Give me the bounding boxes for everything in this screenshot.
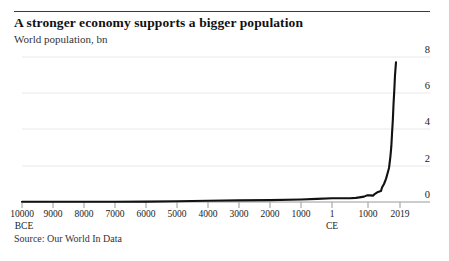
y-tick-label-8: 8: [406, 44, 430, 55]
x-tick-sublabel-bce: BCE: [4, 221, 44, 231]
population-line-series: [22, 62, 396, 202]
chart-plot-area: [0, 0, 449, 261]
x-tick-label-2019: 2019: [380, 209, 420, 219]
y-tick-label-6: 6: [406, 80, 430, 91]
source-caption: Source: Our World In Data: [14, 233, 122, 244]
x-tick-sublabel-ce: CE: [312, 221, 352, 231]
chart-figure: A stronger economy supports a bigger pop…: [0, 0, 449, 261]
x-axis-ticks: [22, 202, 400, 208]
gridlines: [22, 57, 430, 166]
y-tick-label-4: 4: [406, 116, 430, 127]
y-tick-label-0: 0: [406, 189, 430, 200]
x-tick-label-1-ce: 1: [312, 209, 352, 219]
y-tick-label-2: 2: [406, 153, 430, 164]
